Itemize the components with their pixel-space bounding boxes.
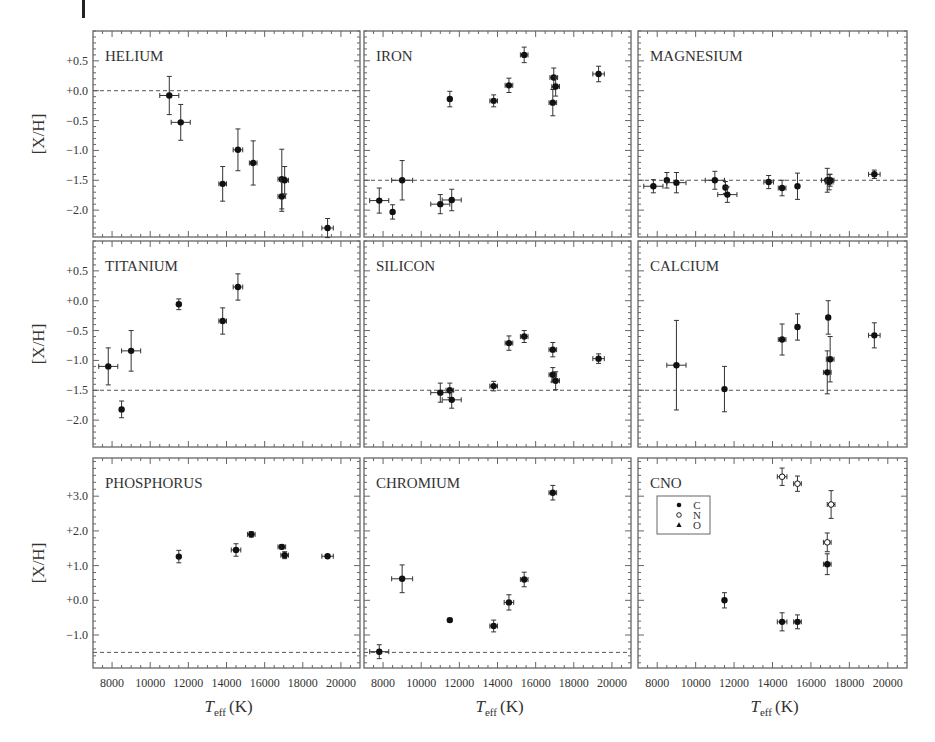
data-point	[370, 188, 389, 213]
data-point	[721, 593, 727, 608]
panel-magnesium: MAGNESIUM	[638, 31, 907, 237]
panel-silicon: SILICON	[364, 241, 631, 447]
filled-marker	[550, 346, 556, 352]
y-tick-label: −1.5	[66, 383, 88, 397]
data-point	[322, 553, 333, 559]
data-point	[644, 180, 663, 193]
data-point	[520, 331, 528, 343]
data-point	[392, 161, 413, 200]
panel-title: IRON	[376, 48, 413, 64]
filled-marker	[871, 171, 877, 177]
panel-helium: +0.5+0.0−0.5−1.0−1.5−2.0HELIUM	[66, 31, 360, 238]
filled-marker	[219, 318, 225, 324]
filled-marker	[550, 490, 556, 496]
open-marker	[824, 540, 830, 546]
filled-marker	[235, 147, 241, 153]
panel-title: CALCIUM	[650, 258, 719, 274]
data-point	[778, 324, 786, 355]
x-tick-label: 14000	[212, 676, 242, 690]
y-tick-label: −1.0	[66, 143, 88, 157]
data-point	[122, 331, 141, 372]
data-point	[777, 468, 787, 485]
x-tick-label: 20000	[326, 676, 356, 690]
data-point	[160, 76, 179, 114]
panel-title: MAGNESIUM	[650, 48, 743, 64]
y-tick-label: +0.0	[66, 593, 88, 607]
data-point	[171, 104, 190, 140]
y-tick-label: +3.0	[66, 489, 88, 503]
x-tick-label: 16000	[796, 676, 826, 690]
filled-marker	[248, 531, 254, 537]
x-tick-label: 16000	[250, 676, 280, 690]
data-point	[490, 381, 498, 391]
filled-marker	[827, 356, 833, 362]
data-point	[392, 565, 413, 593]
data-point	[231, 544, 241, 556]
x-axis-label: Teff(K)	[476, 697, 524, 718]
data-point	[447, 91, 453, 107]
y-tick-label: +0.0	[66, 84, 88, 98]
x-tick-label: 8000	[371, 676, 395, 690]
data-point	[490, 620, 498, 632]
x-tick-label: 10000	[681, 676, 711, 690]
data-point	[431, 195, 450, 214]
y-tick-label: +0.5	[66, 54, 88, 68]
y-tick-label: −2.0	[66, 203, 88, 217]
data-point	[370, 645, 389, 659]
data-point	[278, 544, 286, 550]
data-point	[99, 348, 118, 385]
data-point	[869, 170, 881, 178]
data-point	[705, 171, 724, 189]
data-point	[490, 95, 498, 107]
data-point	[219, 308, 227, 334]
data-point	[667, 173, 686, 193]
filled-marker	[118, 406, 124, 412]
filled-marker	[281, 177, 287, 183]
data-point	[869, 323, 881, 348]
filled-marker	[824, 369, 830, 375]
filled-marker	[550, 372, 556, 378]
data-point	[825, 301, 831, 334]
data-point	[505, 78, 513, 92]
filled-marker	[650, 183, 656, 189]
y-tick-label: −0.5	[66, 114, 88, 128]
abundance-panels-svg: [X/H][X/H][X/H]Teff(K)Teff(K)Teff(K)+0.5…	[0, 0, 935, 742]
data-point	[721, 366, 727, 411]
data-point	[219, 167, 227, 202]
filled-marker	[447, 96, 453, 102]
filled-marker	[721, 597, 727, 603]
data-point	[442, 189, 461, 210]
data-point	[249, 141, 257, 185]
panel-title: PHOSPHORUS	[105, 475, 203, 491]
data-point	[794, 314, 800, 340]
filled-marker	[128, 348, 134, 354]
panel-iron: IRON	[364, 31, 631, 237]
filled-marker	[235, 284, 241, 290]
data-point	[520, 572, 528, 587]
filled-marker	[233, 547, 239, 553]
data-point	[778, 180, 786, 196]
x-tick-label: 8000	[100, 676, 124, 690]
open-marker	[828, 502, 834, 508]
data-point	[718, 187, 737, 203]
data-point	[176, 550, 182, 562]
data-point	[593, 66, 604, 82]
legend: CNO	[657, 496, 710, 534]
y-axis-label: [X/H]	[29, 114, 48, 155]
filled-marker	[506, 599, 512, 605]
filled-marker	[389, 209, 395, 215]
filled-marker	[595, 355, 601, 361]
data-point	[281, 552, 289, 559]
panel-title: CNO	[650, 475, 682, 491]
data-point	[549, 343, 557, 357]
filled-marker	[724, 191, 730, 197]
legend-label: O	[693, 519, 701, 531]
corner-mark	[82, 0, 85, 18]
filled-marker	[166, 92, 172, 98]
filled-marker	[779, 336, 785, 342]
filled-marker	[521, 52, 527, 58]
panel-calcium: CALCIUM	[638, 241, 907, 447]
filled-marker	[324, 225, 330, 231]
data-point	[520, 47, 528, 63]
filled-marker	[281, 552, 287, 558]
